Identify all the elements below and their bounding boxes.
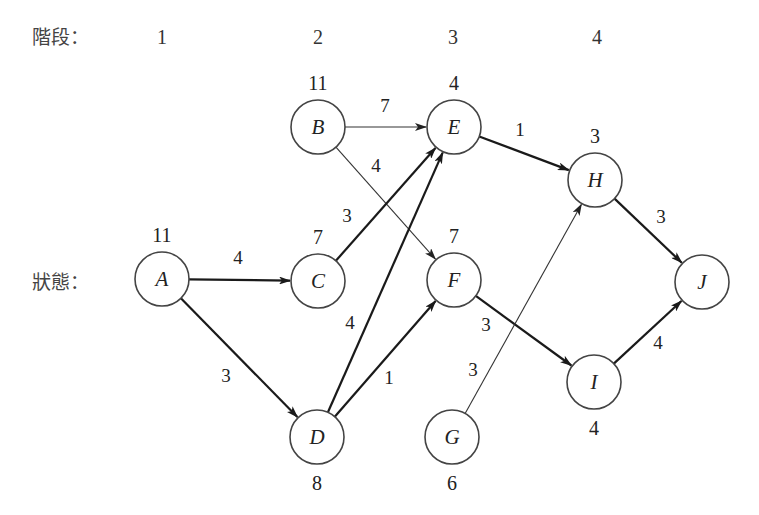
- node-label: C: [311, 269, 326, 293]
- edge-a-c: [189, 279, 290, 280]
- node-value: 4: [449, 72, 459, 94]
- node-value: 8: [312, 472, 322, 494]
- edge-weight-f-i: 3: [481, 314, 491, 335]
- node-g: G6: [425, 410, 479, 494]
- node-label: E: [447, 115, 461, 139]
- nodes-layer: A11B11C7D8E4F7G6H3I4J: [135, 72, 729, 494]
- node-label: D: [308, 425, 324, 449]
- node-c: C7: [291, 226, 345, 308]
- node-j: J: [675, 255, 729, 309]
- node-label: I: [590, 370, 599, 394]
- node-a: A11: [135, 224, 189, 306]
- node-d: D8: [290, 410, 344, 494]
- edge-weight-a-c: 4: [233, 247, 243, 268]
- node-value: 11: [152, 224, 171, 246]
- node-label: H: [586, 168, 604, 192]
- edge-g-h: [465, 204, 581, 413]
- edge-a-d: [181, 298, 297, 417]
- node-value: 7: [313, 226, 323, 248]
- node-value: 7: [449, 225, 459, 247]
- edge-h-j: [615, 199, 682, 263]
- node-b: B11: [291, 72, 345, 154]
- node-label: G: [444, 425, 459, 449]
- edge-weight-c-e: 3: [342, 205, 352, 226]
- stage-number: 4: [592, 26, 602, 48]
- edge-e-h: [479, 136, 569, 170]
- node-label: F: [447, 268, 461, 292]
- node-value: 3: [590, 125, 600, 147]
- edge-weight-h-j: 3: [656, 206, 666, 227]
- edge-weight-d-f: 1: [384, 367, 394, 388]
- node-value: 11: [308, 72, 327, 94]
- state-column-label: 狀態：: [32, 271, 89, 293]
- edge-weight-g-h: 3: [468, 359, 478, 380]
- stage-row-label: 階段：: [32, 26, 89, 48]
- edge-i-j: [614, 301, 682, 364]
- edge-weight-d-e: 4: [345, 312, 355, 333]
- edge-weight-a-d: 3: [221, 365, 231, 386]
- node-label: B: [312, 115, 325, 139]
- edge-weight-b-e: 7: [380, 95, 390, 116]
- edge-weight-e-h: 1: [515, 119, 525, 140]
- edge-weight-b-f: 4: [371, 155, 381, 176]
- stage-numbers: 1234: [157, 26, 602, 48]
- node-e: E4: [427, 72, 481, 154]
- edge-weight-i-j: 4: [653, 332, 663, 353]
- node-h: H3: [568, 125, 622, 207]
- node-f: F7: [427, 225, 481, 307]
- node-value: 4: [589, 417, 599, 439]
- stage-number: 1: [157, 26, 167, 48]
- stage-number: 3: [448, 26, 458, 48]
- stage-number: 2: [313, 26, 323, 48]
- node-i: I4: [567, 355, 621, 439]
- node-label: A: [154, 267, 169, 291]
- node-value: 6: [447, 472, 457, 494]
- dynamic-programming-network-diagram: 階段： 狀態： 1234 437434113334 A11B11C7D8E4F7…: [0, 0, 759, 515]
